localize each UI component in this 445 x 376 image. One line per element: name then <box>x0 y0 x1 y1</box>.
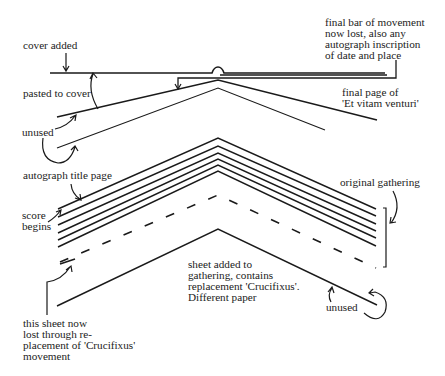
label-autograph-title-page: autograph title page <box>23 170 112 181</box>
label-final-bar: final bar of movement now lost, also any… <box>325 17 425 61</box>
label-final-page: final page of 'Et vitam venturi' <box>342 87 419 109</box>
gathering-sheet-3 <box>58 153 376 225</box>
label-original-gathering: original gathering <box>340 177 420 188</box>
label-unused-top: unused <box>22 127 54 138</box>
label-cover-added: cover added <box>23 40 77 51</box>
label-sheet-lost: this sheet now lost through re- placemen… <box>23 318 135 362</box>
pasted-arc-arrow-icon <box>90 73 98 109</box>
gathering-bracket <box>383 208 386 267</box>
lost-sheet-pointer-icon <box>47 266 72 315</box>
pasted-sheet <box>57 80 377 120</box>
label-pasted-to-cover: pasted to cover <box>23 88 91 99</box>
label-sheet-added: sheet added to gathering, contains repla… <box>188 259 300 303</box>
gathering-sheet-2 <box>58 146 376 217</box>
cover-line <box>50 67 385 73</box>
final-bar-line <box>178 60 396 88</box>
title-page-arrow-icon <box>71 184 81 200</box>
unused-bottom-arrow-icon <box>328 287 334 302</box>
label-unused-bottom: unused <box>326 302 358 313</box>
label-score-begins: score begins <box>22 210 51 232</box>
cover-added-arrow-icon <box>63 53 69 71</box>
original-gathering-arrow-icon <box>390 191 397 223</box>
